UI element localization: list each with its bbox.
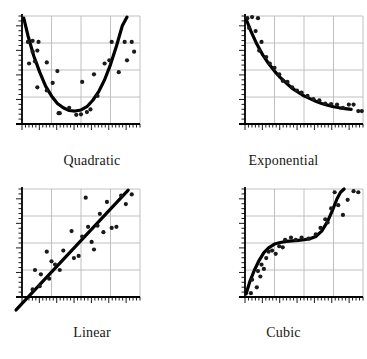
data-point bbox=[311, 97, 315, 101]
panel-label-linear: Linear bbox=[0, 325, 184, 341]
data-point bbox=[259, 263, 263, 267]
data-point bbox=[124, 202, 128, 206]
data-point bbox=[95, 94, 99, 98]
data-point bbox=[317, 98, 321, 102]
data-point bbox=[314, 232, 318, 236]
panel-exponential: Exponential bbox=[184, 0, 367, 180]
fit-curve bbox=[16, 190, 128, 310]
data-point bbox=[31, 39, 35, 43]
plot-svg-exponential bbox=[231, 12, 367, 142]
data-point bbox=[333, 190, 337, 194]
data-point bbox=[274, 252, 278, 256]
data-point bbox=[69, 229, 73, 233]
plot-exponential bbox=[231, 12, 367, 142]
data-point bbox=[289, 236, 293, 240]
plot-svg-linear bbox=[8, 185, 144, 315]
data-point bbox=[329, 102, 333, 106]
data-point bbox=[95, 224, 99, 228]
data-point bbox=[85, 110, 89, 114]
data-point bbox=[262, 267, 266, 271]
data-point bbox=[277, 244, 281, 248]
data-point bbox=[58, 111, 62, 115]
data-point bbox=[80, 234, 84, 238]
data-point bbox=[256, 269, 260, 273]
data-point bbox=[84, 196, 88, 200]
data-point bbox=[103, 61, 107, 65]
fit-curve bbox=[246, 19, 351, 109]
panel-label-cubic: Cubic bbox=[192, 325, 367, 341]
data-point bbox=[258, 274, 262, 278]
data-point bbox=[55, 69, 59, 73]
data-point bbox=[27, 61, 31, 65]
data-point bbox=[88, 107, 92, 111]
data-point bbox=[257, 48, 261, 52]
data-point bbox=[254, 29, 258, 33]
panel-cubic: Cubic bbox=[184, 180, 367, 359]
regression-figure-grid: Quadratic Exponential Linear Cubic bbox=[0, 0, 367, 359]
data-point bbox=[98, 212, 102, 216]
data-point bbox=[249, 291, 253, 295]
data-point bbox=[33, 268, 37, 272]
data-point bbox=[92, 247, 96, 251]
data-point bbox=[270, 248, 274, 252]
data-point bbox=[295, 88, 299, 92]
data-point bbox=[35, 85, 39, 89]
scatter-points bbox=[249, 189, 361, 295]
data-point bbox=[74, 113, 78, 117]
data-point bbox=[256, 16, 260, 20]
data-point bbox=[281, 79, 285, 83]
data-point bbox=[79, 112, 83, 116]
data-point bbox=[51, 81, 55, 85]
data-point bbox=[61, 248, 65, 252]
data-point bbox=[347, 102, 351, 106]
data-point bbox=[86, 225, 90, 229]
data-point bbox=[294, 238, 298, 242]
data-point bbox=[39, 272, 43, 276]
data-point bbox=[53, 263, 57, 267]
plot-cubic bbox=[231, 185, 367, 315]
plot-svg-quadratic bbox=[8, 12, 144, 142]
data-point bbox=[351, 102, 355, 106]
data-point bbox=[90, 240, 94, 244]
data-point bbox=[72, 256, 76, 260]
data-point bbox=[58, 268, 62, 272]
data-point bbox=[26, 40, 30, 44]
data-point bbox=[336, 203, 340, 207]
data-point bbox=[31, 287, 35, 291]
data-point bbox=[38, 284, 42, 288]
data-point bbox=[259, 40, 263, 44]
data-point bbox=[329, 206, 333, 210]
plot-linear bbox=[8, 185, 192, 315]
data-point bbox=[119, 193, 123, 197]
data-point bbox=[305, 94, 309, 98]
data-point bbox=[110, 40, 114, 44]
data-point bbox=[101, 230, 105, 234]
data-point bbox=[49, 259, 53, 263]
data-point bbox=[33, 59, 37, 63]
data-point bbox=[290, 85, 294, 89]
data-point bbox=[245, 16, 249, 20]
data-point bbox=[125, 58, 129, 62]
data-point bbox=[285, 80, 289, 84]
data-point bbox=[360, 109, 364, 113]
data-point bbox=[272, 66, 276, 70]
data-point bbox=[346, 198, 350, 202]
data-point bbox=[123, 40, 127, 44]
plot-svg-cubic bbox=[231, 185, 367, 315]
data-point bbox=[281, 245, 285, 249]
data-point bbox=[351, 189, 355, 193]
data-point bbox=[80, 80, 84, 84]
data-point bbox=[250, 15, 254, 19]
data-point bbox=[323, 101, 327, 105]
data-point bbox=[341, 106, 345, 110]
plot-quadratic bbox=[8, 12, 192, 142]
data-point bbox=[247, 26, 251, 30]
data-point bbox=[92, 72, 96, 76]
data-point bbox=[31, 50, 35, 54]
data-point bbox=[35, 48, 39, 52]
data-point bbox=[264, 55, 268, 59]
data-point bbox=[318, 226, 322, 230]
data-point bbox=[45, 60, 49, 64]
data-point bbox=[267, 250, 271, 254]
data-point bbox=[117, 70, 121, 74]
